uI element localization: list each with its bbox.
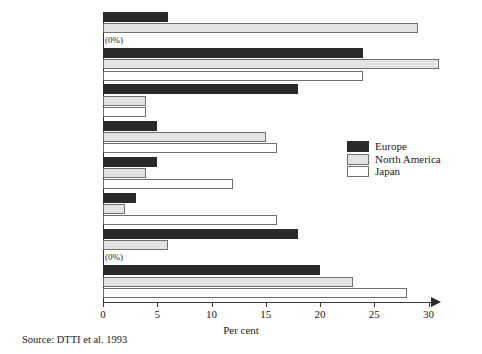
legend-item-europe: Europe <box>347 139 441 152</box>
bar-north-america <box>103 23 418 33</box>
x-axis-spine <box>103 302 433 303</box>
zero-value-annotation: (0%) <box>105 35 123 45</box>
bar-japan <box>103 215 277 225</box>
bar-group: Other(0%) <box>103 12 438 44</box>
bar-europe <box>103 121 157 131</box>
bar-north-america <box>103 277 353 287</box>
x-axis-tick <box>320 302 321 307</box>
bar-north-america <box>103 204 125 214</box>
bar-europe <box>103 12 168 22</box>
bar-europe <box>103 265 320 275</box>
x-axis-tick-label: 25 <box>359 308 389 320</box>
legend-item-japan: Japan <box>347 164 441 177</box>
legend-swatch-europe-icon <box>347 141 369 152</box>
bar-group: Public relations <box>103 265 438 297</box>
chart-legend: Europe North America Japan <box>347 139 441 177</box>
x-axis-tick-label: 5 <box>142 308 172 320</box>
x-axis-tick <box>212 302 213 307</box>
x-axis-tick-label: 15 <box>251 308 281 320</box>
x-axis-tick-label: 10 <box>197 308 227 320</box>
bar-north-america <box>103 132 266 142</box>
x-axis-tick <box>103 302 104 307</box>
bar-japan <box>103 107 146 117</box>
bar-europe <box>103 193 136 203</box>
bar-group: Future legal requirements <box>103 84 438 116</box>
x-axis-tick <box>374 302 375 307</box>
bar-europe <box>103 48 363 58</box>
bar-japan <box>103 288 407 298</box>
legend-label-japan: Japan <box>375 165 400 178</box>
bar-group: Duty to environment <box>103 48 438 80</box>
bar-japan <box>103 179 233 189</box>
zero-value-annotation: (0%) <box>105 252 123 262</box>
bar-japan <box>103 71 363 81</box>
bar-group: Competitive advantage(0%) <box>103 229 438 261</box>
x-axis-tick <box>157 302 158 307</box>
x-axis-tick-label: 0 <box>88 308 118 320</box>
x-axis-tick <box>429 302 430 307</box>
legend-swatch-north-america-icon <box>347 154 369 165</box>
x-axis-tick-label: 20 <box>305 308 335 320</box>
x-axis-tick <box>266 302 267 307</box>
bar-europe <box>103 157 157 167</box>
bar-japan <box>103 143 277 153</box>
x-axis-tick-label: 30 <box>414 308 444 320</box>
bar-north-america <box>103 96 146 106</box>
bar-group: Customer pressure <box>103 193 438 225</box>
legend-item-north-america: North America <box>347 152 441 165</box>
source-note: Source: DTTI et al. 1993 <box>22 334 127 345</box>
bar-chart: 051015202530 Other(0%)Duty to environmen… <box>0 0 482 354</box>
bar-europe <box>103 84 298 94</box>
bar-north-america <box>103 168 146 178</box>
bar-europe <box>103 229 298 239</box>
legend-swatch-japan-icon <box>347 166 369 177</box>
bar-north-america <box>103 59 439 69</box>
bar-north-america <box>103 240 168 250</box>
